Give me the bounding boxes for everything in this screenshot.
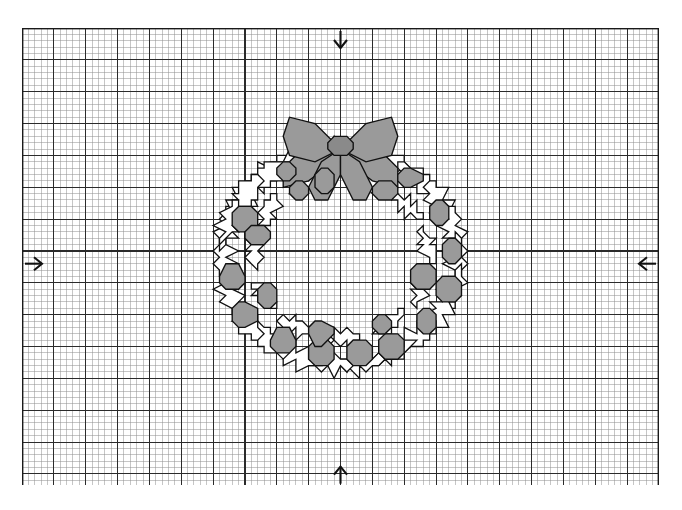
berry-2	[372, 181, 397, 200]
berry-19	[258, 283, 277, 309]
berry-20	[245, 226, 270, 245]
berry-0	[277, 162, 296, 181]
berry-17	[372, 315, 391, 334]
cross-stitch-grid[interactable]	[22, 28, 659, 485]
major-gridlines	[22, 28, 659, 485]
berry-11	[417, 308, 436, 334]
berry-1	[315, 168, 334, 194]
holly-leaf-inner-9	[258, 194, 284, 226]
berry-9	[347, 340, 373, 366]
berry-3	[290, 181, 309, 200]
berry-7	[270, 327, 296, 353]
berry-6	[232, 302, 258, 328]
chart-page	[0, 0, 682, 510]
berry-5	[220, 264, 246, 290]
berry-13	[442, 238, 461, 264]
berry-10	[379, 334, 405, 359]
berry-14	[430, 200, 449, 226]
holly-leaf-inner-2	[417, 226, 436, 264]
berry-16	[411, 264, 437, 290]
berry-12	[436, 276, 461, 302]
bow-knot	[328, 136, 353, 155]
chart-canvas	[22, 28, 659, 485]
